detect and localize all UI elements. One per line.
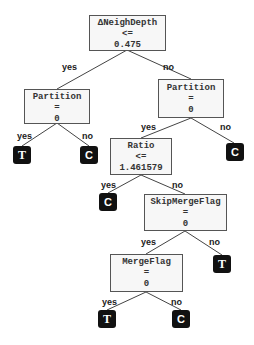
edge-label-yes: yes [141,122,156,132]
edge-label-yes: yes [102,297,117,307]
node-threshold: 0 [159,105,223,116]
node-threshold: 0 [145,219,226,230]
node-operator: <= [111,152,171,163]
leaf-t: T [98,310,116,328]
leaf-c: C [80,146,98,164]
leaf-c: C [172,310,190,328]
edge-label-no: no [172,180,183,190]
node-partition-right: Partition = 0 [158,79,224,118]
node-operator: = [145,208,226,219]
leaf-c: C [99,193,117,211]
node-merge-flag: MergeFlag = 0 [110,254,183,292]
node-threshold: 1.461579 [111,163,171,174]
node-threshold: 0.475 [90,40,165,51]
node-feature: ΔNeighDepth [90,18,165,29]
node-feature: Partition [25,92,89,103]
node-ratio: Ratio <= 1.461579 [110,138,172,175]
edge-label-no: no [171,297,182,307]
node-delta-neigh-depth: ΔNeighDepth <= 0.475 [89,15,166,51]
node-operator: = [111,268,182,279]
edge-label-no: no [163,62,174,72]
edge-label-no: no [82,131,93,141]
node-feature: Partition [159,83,223,94]
node-feature: MergeFlag [111,257,182,268]
node-threshold: 0 [25,114,89,125]
node-feature: SkipMergeFlag [145,197,226,208]
node-skip-merge-flag: SkipMergeFlag = 0 [144,194,227,231]
node-partition-left: Partition = 0 [24,89,90,124]
edge-label-yes: yes [62,62,77,72]
edge-label-yes: yes [141,237,156,247]
node-threshold: 0 [111,279,182,290]
edge-label-yes: yes [17,131,32,141]
edge-label-yes: yes [101,180,116,190]
node-feature: Ratio [111,141,171,152]
edge-label-no: no [209,237,220,247]
decision-tree: ΔNeighDepth <= 0.475 yes no Partition = … [0,0,254,345]
leaf-t: T [13,146,31,164]
node-operator: = [25,103,89,114]
leaf-c: C [226,143,244,161]
node-operator: <= [90,29,165,40]
leaf-t: T [213,255,231,273]
node-operator: = [159,94,223,105]
edge-label-no: no [220,122,231,132]
